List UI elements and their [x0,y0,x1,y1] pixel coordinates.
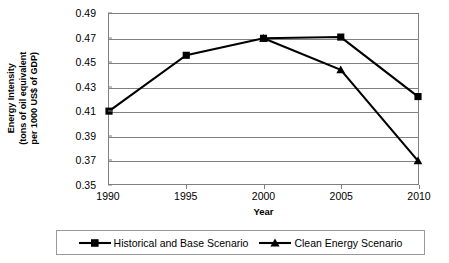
y-axis-tick-labels: 0.490.470.450.430.410.390.370.35 [52,8,96,186]
x-axis-tick [186,185,187,189]
legend-triangle-key-icon [259,237,291,249]
x-axis-tick-label: 1990 [96,190,119,202]
x-axis-tick [341,185,342,189]
y-axis-tick-label: 0.43 [76,81,96,93]
square-marker [337,34,344,41]
legend-square-key-icon [79,237,111,249]
square-marker [183,52,190,59]
y-axis-tick [108,111,112,112]
y-axis-tick [108,62,112,63]
legend-label: Historical and Base Scenario [114,237,249,249]
y-axis-tick-label: 0.39 [76,130,96,142]
x-axis-ticks [108,185,419,189]
series-line [109,37,418,111]
series-line [264,38,419,161]
legend-entry[interactable]: Clean Energy Scenario [259,237,402,249]
y-axis-tick [108,13,112,14]
square-marker [91,239,99,247]
chart-legend: Historical and Base ScenarioClean Energy… [56,230,425,255]
y-axis-tick [108,86,112,87]
x-axis-tick [419,185,420,189]
x-axis-tick-label: 2005 [330,190,353,202]
x-axis-tick-label: 2010 [407,190,430,202]
y-axis-tick [108,160,112,161]
plot-area [108,13,419,185]
square-marker [414,93,421,100]
x-axis-tick [264,185,265,189]
series-layer [109,14,418,184]
y-axis-tick [108,37,112,38]
y-axis-tick-label: 0.35 [76,179,96,191]
y-axis-tick-label: 0.41 [76,105,96,117]
legend-entry[interactable]: Historical and Base Scenario [79,237,249,249]
y-axis-title: Energy Intensity (tons of oil equivalent… [0,8,46,188]
y-axis-tick-label: 0.47 [76,32,96,44]
y-axis-tick [108,135,112,136]
y-axis-tick-label: 0.49 [76,7,96,19]
legend-label: Clean Energy Scenario [294,237,402,249]
x-axis-tick-labels: 19901995200020052010 [108,190,419,206]
y-axis-tick-label: 0.45 [76,56,96,68]
y-axis-ticks [108,13,112,185]
y-axis-tick-label: 0.37 [76,154,96,166]
y-axis-title-line-2: (tons of oil equivalent [17,51,29,144]
x-axis-title: Year [108,206,419,217]
y-axis-title-line-3: per 1000 US$ of GDP) [29,51,41,144]
y-axis-title-line-1: Energy Intensity [6,51,18,144]
x-axis-tick-label: 2000 [252,190,275,202]
x-axis-tick-label: 1995 [174,190,197,202]
